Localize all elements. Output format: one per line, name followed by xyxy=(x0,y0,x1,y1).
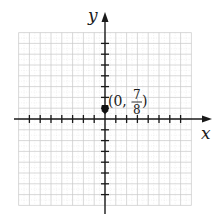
x-axis-label: x xyxy=(201,123,211,143)
point-label-numerator: 7 xyxy=(133,88,141,102)
y-axis-label: y xyxy=(87,5,98,25)
point-label-suffix: ) xyxy=(142,93,147,109)
data-point-tip xyxy=(102,111,109,114)
coordinate-plane: y x (0, 7 8 ) xyxy=(0,0,224,219)
x-axis-arrow-icon xyxy=(202,116,212,123)
point-label-denominator: 8 xyxy=(133,103,141,117)
point-label: (0, 7 8 ) xyxy=(108,88,147,117)
y-axis-arrow-icon xyxy=(102,12,109,22)
point-label-prefix: (0, xyxy=(108,93,127,109)
